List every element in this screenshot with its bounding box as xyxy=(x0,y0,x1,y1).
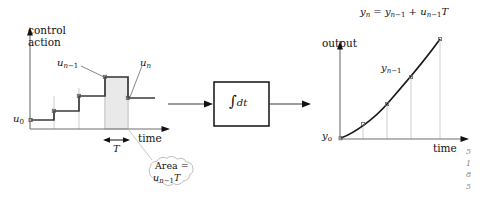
shaded-step-area xyxy=(105,77,128,129)
right-chart xyxy=(337,37,469,141)
callout-line-formula: un−1T xyxy=(153,173,180,185)
left-chart-x-axis-label: time xyxy=(138,133,162,145)
left-x-axis-arrowhead xyxy=(162,126,171,132)
period-arrow-left xyxy=(103,137,110,142)
left-chart-y-axis-label-line2: action xyxy=(28,37,61,49)
right-chart-y-axis-label: output xyxy=(322,38,357,50)
page-edge-artifact-line: 8 xyxy=(466,169,482,181)
integrator-block-label: ∫dt xyxy=(229,93,247,110)
page-edge-artifact: 5 1 8 5 xyxy=(466,146,482,192)
step-label-un-1: un−1 xyxy=(57,57,78,70)
block-output-arrowhead xyxy=(302,101,311,108)
left-chart-y-axis-label-line1: control xyxy=(28,25,66,37)
right-chart-origin-label: yo xyxy=(322,130,332,143)
page-edge-artifact-line: 1 xyxy=(466,158,482,170)
left-chart-origin-label: u0 xyxy=(13,113,24,126)
output-curve xyxy=(341,39,440,138)
period-label: T xyxy=(113,143,120,154)
callout-line-area: Area = xyxy=(155,161,189,171)
block-input-arrowhead xyxy=(204,101,213,108)
diagram-root: control action time u0 un−1 un T Area = … xyxy=(0,0,483,205)
right-x-axis-arrowhead xyxy=(461,136,470,142)
step-label-un: un xyxy=(140,57,151,70)
output-curve-node-markers xyxy=(339,37,442,139)
staircase-curve xyxy=(31,77,155,120)
right-chart-x-axis-label: time xyxy=(433,143,457,155)
page-edge-artifact-line: 5 xyxy=(466,146,482,158)
leader-line-un-1 xyxy=(81,66,104,77)
period-arrow-right xyxy=(123,137,130,142)
output-equation-annotation: yn = yn−1 + un−1T xyxy=(360,6,448,19)
curve-point-label-yn-1: yn−1 xyxy=(381,62,402,75)
leader-line-un xyxy=(130,66,142,97)
page-edge-artifact-line: 5 xyxy=(466,181,482,193)
